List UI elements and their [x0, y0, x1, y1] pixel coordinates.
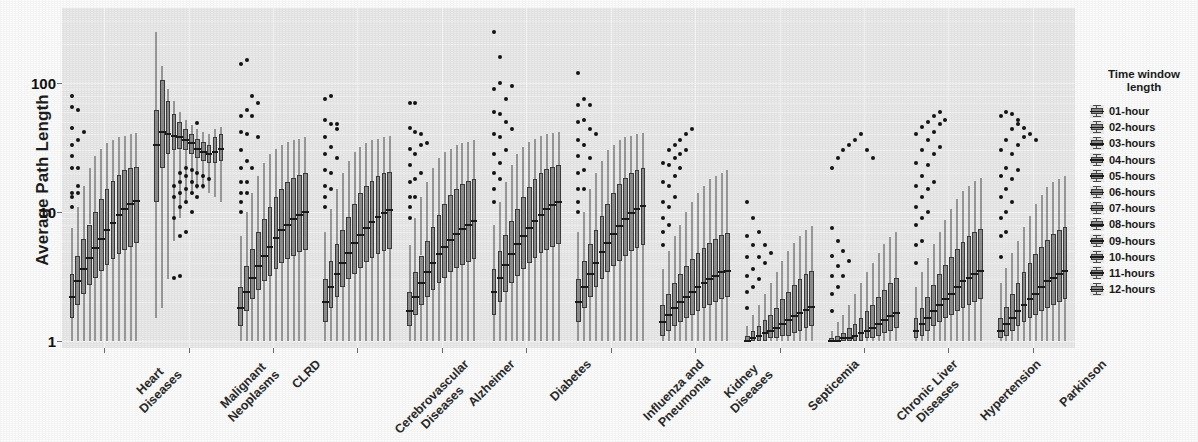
whisker-upper — [220, 127, 221, 135]
outlier-point — [178, 191, 182, 195]
whisker-upper — [450, 149, 451, 196]
legend-item[interactable]: 06-hours — [1090, 184, 1198, 200]
whisker-lower — [540, 253, 541, 341]
whisker-upper — [584, 212, 585, 261]
x-tick-mark — [864, 348, 865, 353]
median-line — [756, 335, 763, 337]
outlier-point — [419, 171, 423, 175]
legend-item[interactable]: 03-hours — [1090, 135, 1198, 151]
boxplot — [93, 8, 98, 348]
box-iqr — [172, 114, 177, 151]
median-line — [924, 317, 931, 319]
outlier-point — [667, 184, 671, 188]
whisker-upper — [113, 140, 114, 180]
whisker-upper — [607, 150, 608, 204]
median-line — [779, 323, 786, 325]
box-group — [484, 8, 568, 348]
boxplot — [503, 8, 508, 348]
whisker-upper — [878, 253, 879, 297]
outlier-point — [920, 195, 924, 199]
median-line — [695, 286, 702, 288]
legend-item[interactable]: 08-hours — [1090, 216, 1198, 232]
outlier-point — [830, 292, 834, 296]
outlier-point — [836, 239, 840, 243]
median-line — [593, 262, 600, 264]
whisker-upper — [831, 331, 832, 338]
outlier-point — [745, 200, 749, 204]
boxplot — [949, 8, 954, 348]
boxplot — [166, 8, 171, 348]
median-line — [671, 307, 678, 309]
legend-item[interactable]: 02-hours — [1090, 119, 1198, 135]
boxplot-key-icon — [1090, 218, 1104, 231]
median-line — [110, 222, 117, 224]
y-tick-label: 10 — [4, 204, 56, 221]
whisker-upper — [1018, 241, 1019, 284]
outlier-point — [661, 161, 665, 165]
outlier-point — [1016, 118, 1020, 122]
x-tick-mark — [442, 348, 443, 353]
outlier-point — [763, 261, 767, 265]
legend-item[interactable]: 01-hour — [1090, 103, 1198, 119]
boxplot — [472, 8, 477, 348]
whisker-upper — [927, 258, 928, 297]
outlier-point — [751, 216, 755, 220]
outlier-point — [576, 200, 580, 204]
whisker-upper — [613, 145, 614, 193]
legend-item[interactable]: 11-hours — [1090, 265, 1198, 281]
median-line — [1009, 317, 1016, 319]
whisker-upper — [124, 136, 125, 171]
boxplot — [111, 8, 116, 348]
outlier-point — [1010, 200, 1014, 204]
median-line — [412, 296, 419, 298]
box-iqr — [641, 168, 646, 246]
whisker-upper — [389, 136, 390, 172]
outlier-point — [576, 120, 580, 124]
whisker-upper — [1053, 182, 1054, 234]
whisker-upper — [698, 193, 699, 253]
boxplot — [466, 8, 471, 348]
whisker-lower — [1012, 331, 1013, 341]
median-line — [69, 296, 76, 298]
median-line — [369, 221, 376, 223]
outlier-point — [190, 168, 194, 172]
boxplot — [757, 8, 762, 348]
outlier-point — [932, 130, 936, 134]
outlier-point — [323, 184, 327, 188]
whisker-lower — [1018, 326, 1019, 341]
whisker-lower — [95, 278, 96, 341]
whisker-upper — [107, 143, 108, 189]
boxplot — [672, 8, 677, 348]
legend-item[interactable]: 10-hours — [1090, 249, 1198, 265]
whisker-upper — [619, 140, 620, 184]
boxplot — [195, 8, 200, 348]
legend-item[interactable]: 05-hours — [1090, 168, 1198, 184]
boxplot — [702, 8, 707, 348]
whisker-lower — [83, 294, 84, 341]
box-iqr — [419, 256, 424, 306]
median-line — [936, 304, 943, 306]
legend-item[interactable]: 09-hours — [1090, 233, 1198, 249]
legend-item[interactable]: 07-hours — [1090, 200, 1198, 216]
boxplot-key-icon — [1090, 121, 1104, 134]
median-line — [997, 330, 1004, 332]
median-line — [296, 214, 303, 216]
whisker-upper — [855, 294, 856, 324]
box-iqr — [876, 297, 881, 336]
whisker-upper — [415, 218, 416, 273]
outlier-point — [943, 118, 947, 122]
whisker-upper — [517, 154, 518, 209]
whisker-lower — [462, 265, 463, 341]
legend-item[interactable]: 04-hours — [1090, 152, 1198, 168]
boxplot — [544, 8, 549, 348]
legend-item[interactable]: 12-hours — [1090, 281, 1198, 297]
box-group — [400, 8, 484, 348]
outlier-point — [245, 58, 249, 62]
y-tick-label: 100 — [4, 75, 56, 92]
box-iqr — [99, 199, 104, 270]
outlier-point — [178, 234, 182, 238]
boxplot — [792, 8, 797, 348]
median-line — [785, 319, 792, 321]
boxplot — [780, 8, 785, 348]
outlier-point — [1004, 210, 1008, 214]
